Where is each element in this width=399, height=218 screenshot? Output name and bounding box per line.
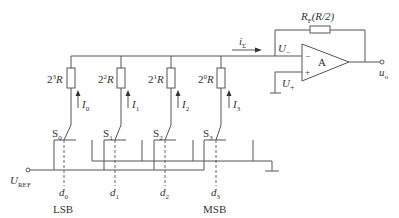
uref-terminal (26, 168, 30, 172)
resistor-label: 21R (148, 73, 164, 85)
uref-label: UREF (10, 174, 31, 189)
resistor-label: 20R (198, 73, 214, 85)
arrow-up-icon (176, 90, 181, 96)
lsb-label: LSB (53, 203, 73, 215)
sum-current-label: iΣ (239, 35, 246, 50)
feedback-resistor (310, 26, 330, 33)
inv-input-label: U− (278, 42, 291, 57)
output-label: uo (379, 66, 389, 81)
arrow-right-icon (255, 48, 262, 53)
svg-text:I2: I2 (181, 98, 190, 113)
resistor-branch-3: 20R I3 (198, 56, 241, 125)
arrow-up-icon (76, 90, 81, 96)
resistor-branch-1: 22R I1 (98, 56, 140, 125)
output-terminal (380, 60, 384, 64)
opamp-plus-sign: + (305, 67, 310, 77)
arrow-up-icon (227, 90, 232, 96)
opamp-minus-sign: − (305, 51, 310, 61)
svg-text:I1: I1 (131, 98, 140, 113)
msb-label: MSB (203, 203, 226, 215)
resistor-2pow2R (117, 68, 125, 88)
opamp-label: A (318, 56, 326, 68)
resistor-2pow0R (217, 68, 225, 88)
dac-circuit-diagram: 23R I0 22R I1 21R I2 20R I3 S0 (0, 0, 399, 218)
svg-text:I0: I0 (81, 98, 90, 113)
resistor-label: 23R (47, 73, 63, 85)
resistor-branch-0: 23R I0 (47, 56, 90, 125)
resistor-branch-2: 21R I2 (148, 56, 190, 125)
resistor-label: 22R (98, 73, 114, 85)
resistor-2pow3R (67, 68, 75, 88)
arrow-up-icon (126, 90, 131, 96)
feedback-resistor-label: RF(R/2) (300, 10, 335, 25)
resistor-2pow1R (167, 68, 175, 88)
svg-text:I3: I3 (232, 98, 241, 113)
noninv-input-label: U+ (282, 77, 295, 92)
